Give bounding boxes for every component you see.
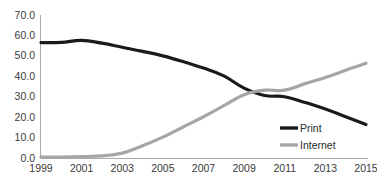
y-tick-label: 60.0 [15,29,36,41]
x-tick-label: 2013 [314,162,338,174]
line-chart: 0.010.020.030.040.050.060.070.0 19992001… [0,0,377,189]
y-tick-label: 50.0 [15,49,36,61]
y-tick-label: 40.0 [15,70,36,82]
y-tick-label: 70.0 [15,9,36,21]
y-tick-label: 10.0 [15,131,36,143]
chart-container: 0.010.020.030.040.050.060.070.0 19992001… [0,0,377,189]
x-tick-label: 1999 [29,162,53,174]
legend-label-internet: Internet [300,139,336,151]
x-tick-label: 2009 [232,162,256,174]
x-tick-label: 2001 [70,162,94,174]
y-tick-label: 30.0 [15,90,36,102]
series-line-print [41,40,366,124]
x-tick-label: 2005 [151,162,175,174]
x-tick-label: 2003 [111,162,135,174]
y-axis-tick-labels: 0.010.020.030.040.050.060.070.0 [15,9,36,164]
x-axis-tick-labels: 199920012003200520072009201120132015 [29,162,377,174]
x-tick-label: 2015 [354,162,377,174]
x-tick-label: 2011 [273,162,296,174]
legend-label-print: Print [300,122,322,134]
y-tick-label: 20.0 [15,111,36,123]
x-tick-label: 2007 [192,162,216,174]
chart-legend: PrintInternet [280,122,336,151]
